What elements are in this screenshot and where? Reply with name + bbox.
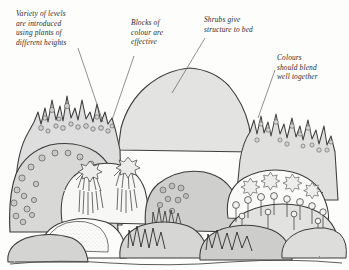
plant-group-shrub-mass-centre (118, 68, 253, 152)
leader-line-colours (258, 70, 275, 118)
illustration-page: Variety of levels are introduced using p… (0, 0, 349, 270)
annotation-shrubs-give-structure: Shrubs give structure to bed (204, 15, 253, 34)
annotation-colours-should-blend: Colours should blend well together (277, 53, 318, 82)
annotation-blocks-of-colour: Blocks of colour are effective (131, 18, 163, 47)
annotation-variety-of-levels: Variety of levels are introduced using p… (16, 9, 67, 47)
